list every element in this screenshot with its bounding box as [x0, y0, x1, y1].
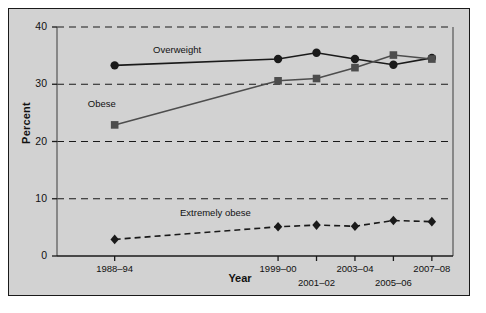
- chart-plot-area: [9, 9, 471, 297]
- figure-panel: Percent Year 403020100 1988–941999–00200…: [8, 8, 470, 296]
